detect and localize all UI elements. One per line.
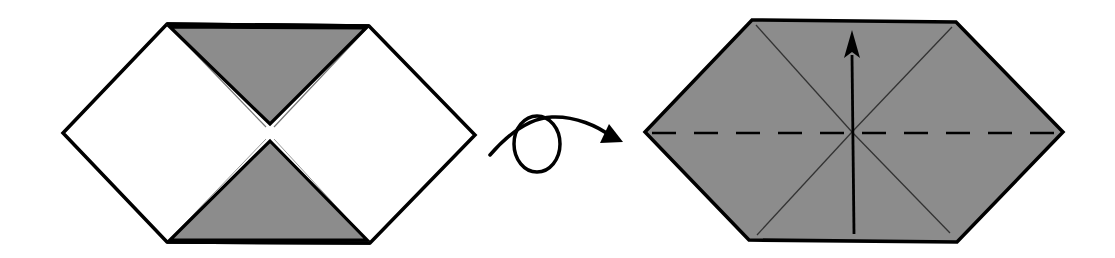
step-before-model [63,24,475,243]
turn-over-arrow-icon [490,116,623,172]
step-after-model [645,20,1063,242]
diagram-canvas [0,0,1115,258]
origami-diagram: Model turned over: fully colored hexagon… [0,0,1115,258]
